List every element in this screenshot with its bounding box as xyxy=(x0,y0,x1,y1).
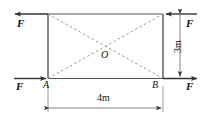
point-label-b: B xyxy=(152,80,158,90)
force-label-bottom-right: F xyxy=(186,81,193,92)
dimension-label-width: 4m xyxy=(97,93,110,103)
force-label-top-left: F xyxy=(17,18,24,29)
point-label-o: O xyxy=(101,50,108,60)
force-label-bottom-left: F xyxy=(16,81,23,92)
dimension-label-height: 3m xyxy=(173,40,183,53)
force-label-top-right: F xyxy=(186,18,193,29)
force-diagram: F F F F A B O 4m 3m xyxy=(0,0,204,120)
point-label-a: A xyxy=(43,80,49,90)
diagonals xyxy=(48,14,163,79)
